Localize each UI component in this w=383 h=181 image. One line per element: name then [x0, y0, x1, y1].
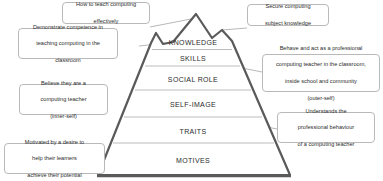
pyramid-outline: [98, 14, 290, 175]
leader-line-secure-knowledge: [222, 28, 247, 30]
callout-demonstrate-competence-text: Demonstrate competence in teaching compu…: [22, 23, 114, 65]
pyramid-diagram-canvas: KNOWLEDGE SKILLS SOCIAL ROLE SELF-IMAGE …: [0, 0, 383, 181]
callout-believe-teacher: Believe they are a computing teacher (in…: [19, 84, 108, 115]
callout-how-to-teach: How to teach computing effectively: [62, 2, 150, 24]
callout-behave-professional-text: Behave and act as a professional computi…: [266, 44, 376, 103]
callout-behave-professional: Behave and act as a professional computi…: [262, 54, 380, 92]
callout-motivated-desire: Motivated by a desire to help their lear…: [4, 143, 105, 174]
callout-believe-teacher-text: Believe they are a computing teacher (in…: [23, 79, 104, 121]
callout-demonstrate-competence: Demonstrate competence in teaching compu…: [18, 28, 118, 59]
callout-secure-knowledge: Secure computing subject knowledge: [247, 4, 329, 26]
callout-understands-behaviour-text: Understands the professional behaviour o…: [281, 107, 371, 149]
callout-secure-knowledge-text: Secure computing subject knowledge: [251, 2, 325, 27]
callout-motivated-desire-text: Motivated by a desire to help their lear…: [8, 138, 101, 180]
callout-understands-behaviour: Understands the professional behaviour o…: [277, 112, 375, 143]
